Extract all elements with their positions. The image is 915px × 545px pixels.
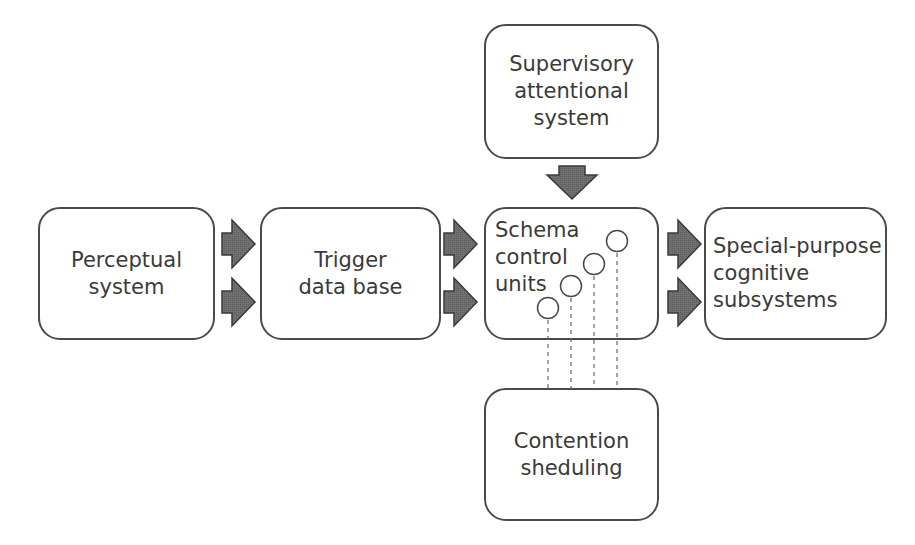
right-block-arrow-icon: [668, 220, 701, 268]
contention-line-2: sheduling: [520, 455, 622, 482]
supervisory-attentional-system-box: Supervisory attentional system: [484, 24, 659, 159]
perceptual-line-1: Perceptual: [71, 247, 182, 274]
right-block-arrow-icon: [222, 220, 255, 268]
special-purpose-subsystems-box: Special-purpose cognitive subsystems: [704, 207, 887, 340]
contention-line-1: Contention: [514, 428, 630, 455]
supervisory-line-2: attentional: [514, 78, 629, 105]
schema-line-1: Schema: [495, 217, 579, 244]
schema-line-3: units: [495, 271, 547, 298]
perceptual-line-2: system: [89, 274, 165, 301]
special-line-3: subsystems: [713, 287, 837, 314]
down-block-arrow-icon: [547, 166, 597, 199]
right-block-arrow-icon: [668, 278, 701, 326]
special-line-2: cognitive: [713, 260, 809, 287]
supervisory-line-1: Supervisory: [509, 51, 634, 78]
right-block-arrow-icon: [222, 278, 255, 326]
arrow-schema-to-special: [668, 220, 701, 326]
arrow-trigger-to-schema: [444, 220, 477, 326]
special-line-1: Special-purpose: [713, 233, 882, 260]
schema-control-units-box: Schema control units: [484, 207, 659, 340]
right-block-arrow-icon: [444, 278, 477, 326]
contention-scheduling-box: Contention sheduling: [484, 388, 659, 521]
trigger-data-base-box: Trigger data base: [260, 207, 441, 340]
supervisory-line-3: system: [534, 105, 610, 132]
schema-line-2: control: [495, 244, 568, 271]
trigger-line-1: Trigger: [314, 247, 386, 274]
arrow-perceptual-to-trigger: [222, 220, 255, 326]
right-block-arrow-icon: [444, 220, 477, 268]
perceptual-system-box: Perceptual system: [38, 207, 215, 340]
trigger-line-2: data base: [298, 274, 402, 301]
